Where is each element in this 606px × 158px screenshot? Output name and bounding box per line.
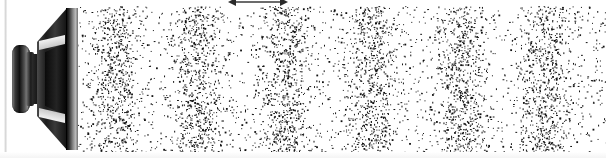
sound-wave-figure: Loudspeaker emitting a longitudinal soun… xyxy=(0,0,606,158)
loudspeaker-driver xyxy=(12,8,78,150)
page-edge-bottom xyxy=(0,152,606,158)
speaker-front-flange xyxy=(66,8,78,150)
speaker-cone-inner-shadow xyxy=(45,42,66,116)
page-edge-left xyxy=(4,0,7,158)
air-molecule-dotfield xyxy=(78,6,606,152)
molecule-canvas xyxy=(78,6,606,152)
